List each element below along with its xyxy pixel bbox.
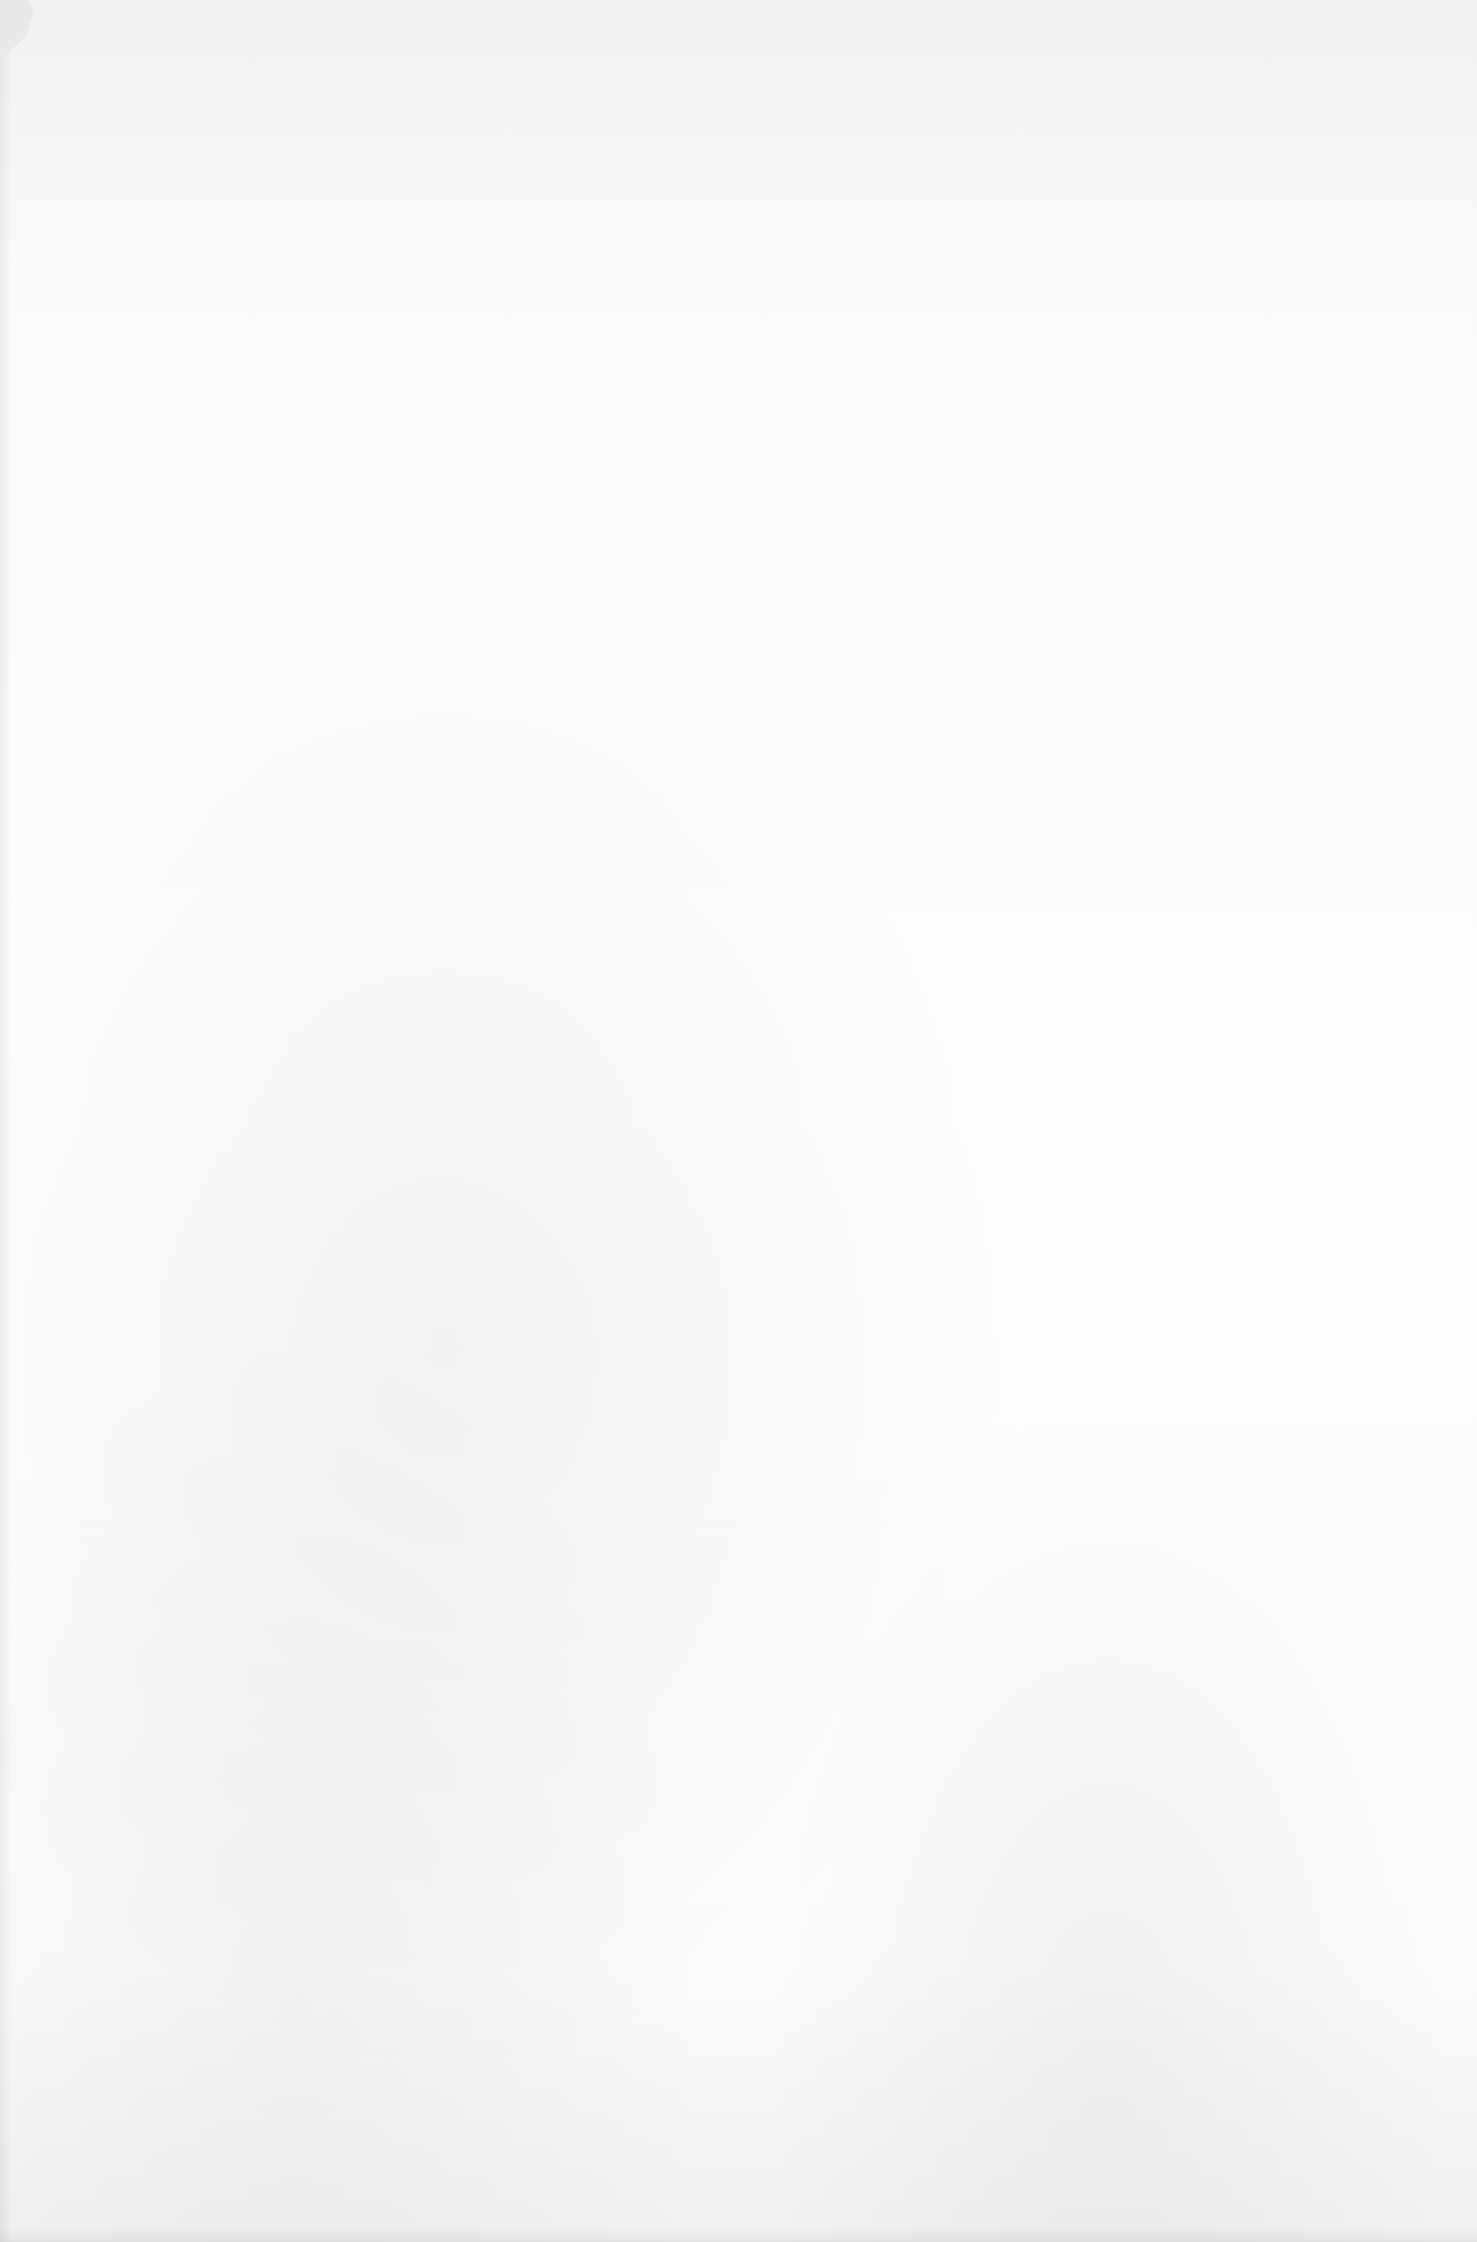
page-bottom-edge-shadow [0, 2228, 1477, 2242]
torn-corner [0, 0, 48, 60]
blank-paper-page [0, 0, 1477, 2242]
page-left-edge-shadow [0, 0, 12, 2242]
